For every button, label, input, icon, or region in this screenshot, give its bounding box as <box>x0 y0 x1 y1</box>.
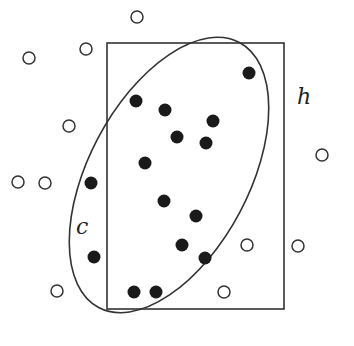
positive-point <box>171 131 184 144</box>
hypothesis-rectangle <box>107 43 284 309</box>
negative-point <box>218 286 230 298</box>
positive-point <box>207 115 220 128</box>
positive-point <box>199 252 212 265</box>
concept-hypothesis-diagram: h c <box>0 0 354 346</box>
negative-point <box>23 52 35 64</box>
positive-point <box>128 286 141 299</box>
positive-point <box>243 67 256 80</box>
positive-point <box>200 137 213 150</box>
positive-point <box>130 95 143 108</box>
hypothesis-label: h <box>297 84 311 109</box>
positive-examples <box>85 67 256 299</box>
negative-point <box>80 43 92 55</box>
negative-point <box>12 176 24 188</box>
positive-point <box>150 286 163 299</box>
negative-point <box>51 285 63 297</box>
negative-point <box>292 240 304 252</box>
concept-label: c <box>76 214 88 239</box>
negative-point <box>316 149 328 161</box>
negative-point <box>241 239 253 251</box>
negative-point <box>39 177 51 189</box>
positive-point <box>176 239 189 252</box>
positive-point <box>88 251 101 264</box>
positive-point <box>85 177 98 190</box>
positive-point <box>190 210 203 223</box>
positive-point <box>158 195 171 208</box>
negative-point <box>131 11 143 23</box>
negative-point <box>63 120 75 132</box>
concept-ellipse <box>28 5 310 345</box>
positive-point <box>159 104 172 117</box>
positive-point <box>139 157 152 170</box>
